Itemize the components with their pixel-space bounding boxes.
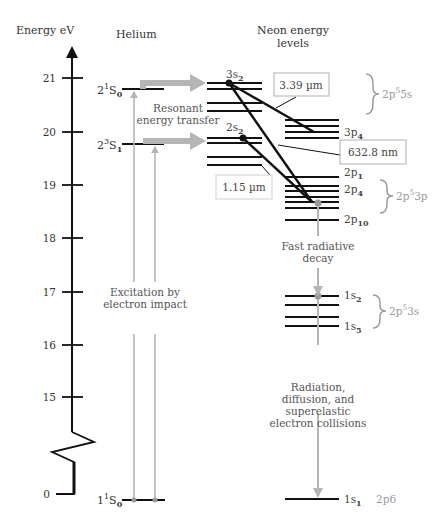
neon-column: Neon energy levels 3s2 2s2 3p4 (207, 24, 428, 508)
axis-tick-label: 18 (43, 232, 56, 244)
axis-title: Energy eV (16, 24, 75, 37)
neon-title-1: Neon energy (257, 24, 330, 37)
transfer-label-1: Resonant (153, 102, 204, 114)
energy-level-diagram: Energy eV 212019181716150 Helium 21S0 23… (0, 0, 436, 526)
neon-label-2p4: 2p4 (344, 183, 363, 198)
axis-ticks: 212019181716150 (43, 72, 83, 500)
excitation-label-2: electron impact (103, 298, 188, 310)
axis-tick-label: 19 (43, 179, 56, 191)
neon-title-2: levels (277, 37, 309, 50)
excitation-label-1: Excitation by (110, 286, 180, 298)
wavelength-339um: 3.39 µm (279, 79, 323, 91)
group-label-2p53p: 2p53p (396, 188, 428, 202)
wavelength-115um: 1.15 µm (222, 181, 266, 193)
axis-tick-label: 20 (43, 126, 56, 138)
group-label-ground: 2p6 (376, 493, 396, 505)
radiation-label-1: Radiation, (291, 381, 346, 393)
axis-tick-label: 0 (43, 488, 50, 500)
brace-2p55s (366, 74, 379, 114)
helium-column: Helium 21S0 23S1 11S0 Excitation by elec… (97, 28, 220, 509)
neon-label-3p4: 3p4 (344, 126, 363, 141)
neon-label-2s2: 2s2 (226, 121, 244, 136)
axis-tick-label: 21 (43, 72, 56, 84)
neon-label-1s1: 1s1 (344, 493, 362, 508)
neon-label-1s2: 1s2 (344, 289, 362, 304)
group-label-2p53s: 2p53s (389, 303, 419, 317)
fast-decay-label-2: decay (302, 252, 333, 264)
wavelength-6328nm: 632.8 nm (348, 146, 398, 158)
neon-label-2p10: 2p10 (344, 213, 369, 228)
neon-label-1s5: 1s5 (344, 320, 362, 335)
neon-3p-levels (285, 120, 339, 138)
neon-label-2p1: 2p1 (344, 166, 363, 181)
he-label-21S0: 21S0 (97, 82, 123, 99)
he-label-23S1: 23S1 (97, 137, 122, 154)
axis-tick-label: 15 (43, 391, 56, 403)
axis-tick-label: 16 (43, 339, 57, 351)
brace-2p53p (380, 180, 393, 213)
group-label-2p55s: 2p55s (382, 86, 412, 100)
axis-tick-label: 17 (43, 286, 56, 298)
helium-title: Helium (116, 28, 157, 41)
radiation-label-4: electron collisions (270, 417, 367, 429)
brace-2p53s (373, 295, 386, 328)
transfer-label-2: energy transfer (137, 114, 221, 126)
radiation-label-2: diffusion, and (282, 393, 355, 405)
he-label-11S0: 11S0 (97, 492, 123, 509)
energy-axis: Energy eV 212019181716150 (16, 24, 94, 500)
radiation-label-3: superelastic (286, 405, 351, 417)
fast-decay-label-1: Fast radiative (281, 240, 354, 252)
